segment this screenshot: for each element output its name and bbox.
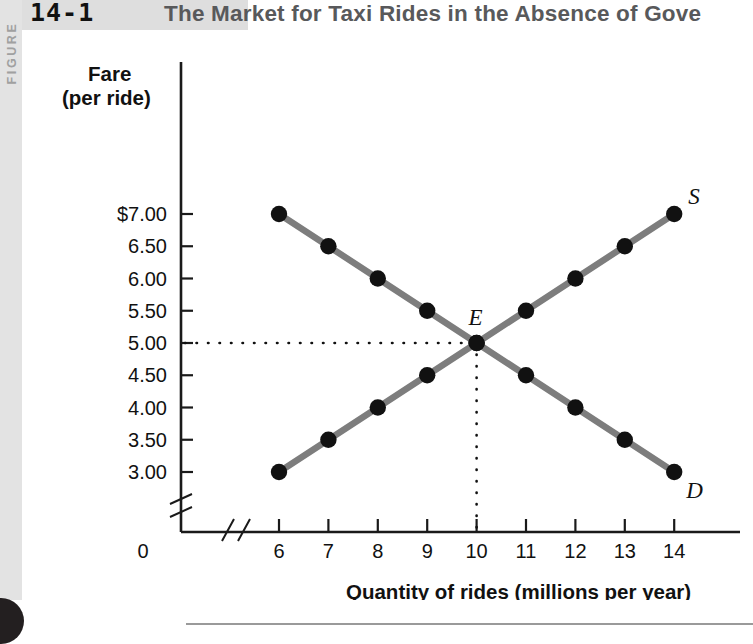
demand-data-point <box>666 464 682 480</box>
x-axis-tick-label: 13 <box>614 540 636 562</box>
x-axis-tick-label: 11 <box>516 540 537 562</box>
y-axis-title-line2: (per ride) <box>62 86 151 109</box>
y-axis-tick-label: 3.50 <box>128 429 167 451</box>
demand-data-point <box>370 270 386 286</box>
y-axis-title-line1: Fare <box>88 62 131 85</box>
x-axis-tick-label: 10 <box>465 540 487 562</box>
supply-data-point <box>370 399 386 415</box>
x-axis-tick-label: 7 <box>323 540 334 562</box>
x-axis-ticks <box>279 519 674 532</box>
y-axis-tick-label: 5.00 <box>128 332 167 354</box>
demand-data-point <box>567 399 583 415</box>
figure-number: 14-1 <box>30 0 94 27</box>
supply-data-point <box>271 464 287 480</box>
y-axis-tick-label: 6.50 <box>128 235 167 257</box>
y-axis-tick-label: 4.00 <box>128 397 167 419</box>
equilibrium-point-label: E <box>468 305 483 330</box>
supply-data-point <box>419 367 435 383</box>
demand-data-point <box>518 367 534 383</box>
x-axis-tick-label: 14 <box>663 540 685 562</box>
figure-title: The Market for Taxi Rides in the Absence… <box>164 1 701 27</box>
x-axis-tick-label: 12 <box>564 540 586 562</box>
demand-data-point <box>320 238 336 254</box>
demand-curve-label: D <box>685 478 703 503</box>
chart-series-layer <box>271 206 683 480</box>
x-axis-tick-label: 9 <box>422 540 433 562</box>
demand-data-point <box>617 432 633 448</box>
footer-rule <box>186 623 753 625</box>
y-axis-tick-label: 4.50 <box>128 364 167 386</box>
y-axis-tick-label: 3.00 <box>128 461 167 483</box>
demand-data-point <box>419 303 435 319</box>
supply-curve-label: S <box>688 184 700 209</box>
chart-axes <box>170 62 740 541</box>
supply-data-point <box>617 238 633 254</box>
supply-data-point <box>320 432 336 448</box>
chart-plot-area: $7.006.506.005.505.004.504.003.503.00 67… <box>0 34 753 600</box>
supply-data-point <box>666 206 682 222</box>
y-axis-tick-label: 5.50 <box>128 300 167 322</box>
y-axis-tick-label: $7.00 <box>117 203 167 225</box>
supply-data-point <box>567 270 583 286</box>
supply-data-point <box>518 303 534 319</box>
x-axis-tick-labels: 67891011121314 <box>273 540 685 562</box>
origin-label: 0 <box>137 540 148 562</box>
x-axis-tick-label: 6 <box>273 540 284 562</box>
y-axis-ticks <box>181 214 193 472</box>
demand-data-point <box>271 206 287 222</box>
y-axis-tick-label: 6.00 <box>128 268 167 290</box>
supply-data-point <box>468 335 484 351</box>
chart-svg: $7.006.506.005.505.004.504.003.503.00 67… <box>0 34 753 600</box>
y-axis-tick-labels: $7.006.506.005.505.004.504.003.503.00 <box>117 203 167 483</box>
x-axis-title: Quantity of rides (millions per year) <box>346 580 691 600</box>
x-axis-break-marks <box>222 519 250 541</box>
figure-header: 14-1 The Market for Taxi Rides in the Ab… <box>0 0 753 34</box>
x-axis-tick-label: 8 <box>372 540 383 562</box>
page-corner-dot <box>0 598 24 644</box>
